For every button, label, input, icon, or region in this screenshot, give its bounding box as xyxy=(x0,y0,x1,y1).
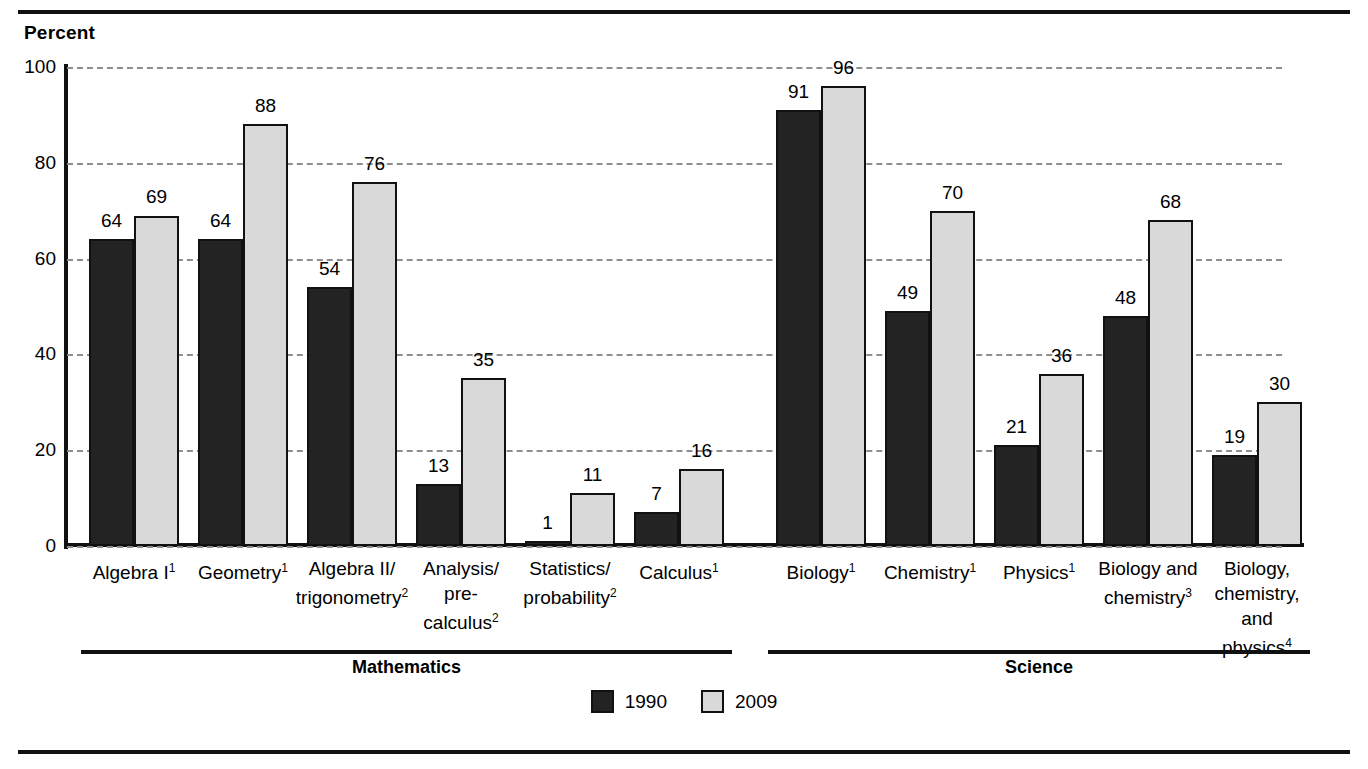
y-tick-label: 100 xyxy=(8,56,56,78)
bar-value-label: 64 xyxy=(210,210,231,232)
bar-value-label: 19 xyxy=(1224,426,1245,448)
bar-value-label: 36 xyxy=(1051,345,1072,367)
y-tick-label: 40 xyxy=(8,343,56,365)
bar-value-label: 70 xyxy=(942,182,963,204)
bar[interactable] xyxy=(461,378,506,546)
group-rule xyxy=(768,650,1310,654)
bar-value-label: 76 xyxy=(364,153,385,175)
bar-value-label: 13 xyxy=(428,455,449,477)
bar[interactable] xyxy=(1212,455,1257,546)
bar-value-label: 54 xyxy=(319,258,340,280)
bar[interactable] xyxy=(1148,220,1193,546)
bar-value-label: 1 xyxy=(542,512,553,534)
bar[interactable] xyxy=(994,445,1039,546)
group-label: Science xyxy=(1005,657,1073,678)
y-axis-tick-labels: 020406080100 xyxy=(8,67,56,546)
bar[interactable] xyxy=(570,493,615,546)
bottom-rule xyxy=(18,750,1350,754)
legend-item[interactable]: 1990 xyxy=(591,690,667,713)
group-label: Mathematics xyxy=(352,657,461,678)
y-axis-title: Percent xyxy=(24,22,95,44)
bar[interactable] xyxy=(821,86,866,546)
bar[interactable] xyxy=(679,469,724,546)
bar-value-label: 7 xyxy=(651,483,662,505)
bar[interactable] xyxy=(352,182,397,546)
bar[interactable] xyxy=(198,239,243,546)
y-tick-label: 20 xyxy=(8,439,56,461)
legend-item[interactable]: 2009 xyxy=(701,690,777,713)
y-tick-label: 0 xyxy=(8,535,56,557)
chart-legend: 19902009 xyxy=(0,690,1368,713)
bar-value-label: 35 xyxy=(473,349,494,371)
bar[interactable] xyxy=(525,541,570,546)
bar[interactable] xyxy=(416,484,461,546)
bar[interactable] xyxy=(1103,316,1148,546)
group-rule xyxy=(81,650,732,654)
bar[interactable] xyxy=(1039,374,1084,546)
bar-value-label: 91 xyxy=(788,81,809,103)
gridline-0 xyxy=(67,546,1282,548)
bar-value-label: 48 xyxy=(1115,287,1136,309)
bar[interactable] xyxy=(243,124,288,546)
legend-label: 2009 xyxy=(735,691,777,713)
bar-value-label: 30 xyxy=(1269,373,1290,395)
category-label: Biology,chemistry,andphysics4 xyxy=(1172,556,1342,660)
bar-value-label: 68 xyxy=(1160,191,1181,213)
bar-value-label: 88 xyxy=(255,95,276,117)
bar[interactable] xyxy=(930,211,975,546)
bar[interactable] xyxy=(134,216,179,547)
bar[interactable] xyxy=(776,110,821,546)
legend-swatch-2009 xyxy=(701,690,724,713)
bar-value-label: 69 xyxy=(146,186,167,208)
bar[interactable] xyxy=(885,311,930,546)
bar-value-label: 11 xyxy=(583,464,603,486)
bar-value-label: 21 xyxy=(1006,416,1027,438)
bar-value-label: 96 xyxy=(833,57,854,79)
y-tick-label: 80 xyxy=(8,152,56,174)
bar[interactable] xyxy=(89,239,134,546)
bar[interactable] xyxy=(307,287,352,546)
bar[interactable] xyxy=(1257,402,1302,546)
y-tick-label: 60 xyxy=(8,248,56,270)
legend-swatch-1990 xyxy=(591,690,614,713)
bar-value-label: 16 xyxy=(691,440,712,462)
bar[interactable] xyxy=(634,512,679,546)
top-rule xyxy=(18,10,1350,14)
legend-label: 1990 xyxy=(625,691,667,713)
bar-value-label: 64 xyxy=(101,210,122,232)
bar-value-label: 49 xyxy=(897,282,918,304)
